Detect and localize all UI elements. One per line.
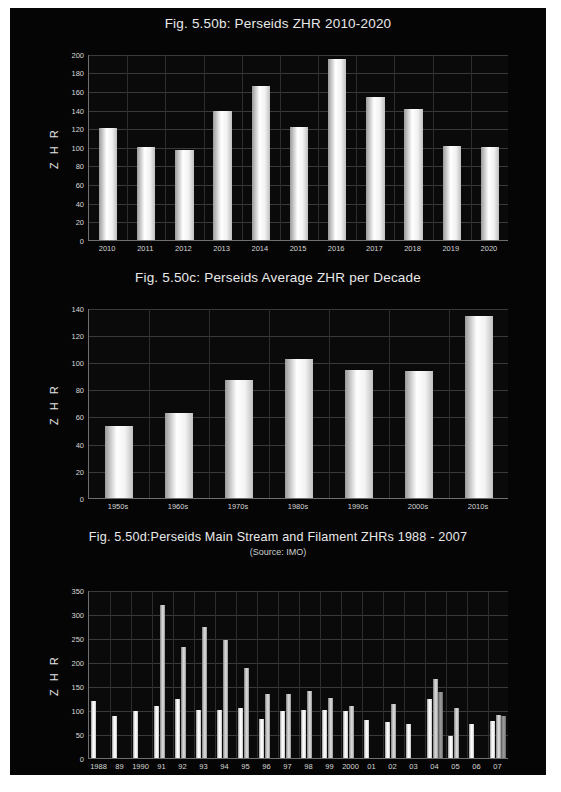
y-axis-tick-label: 50 [60,730,84,739]
vertical-gridline [204,55,205,240]
y-axis-tick-label: 20 [60,218,84,227]
y-axis-tick-label: 40 [60,199,84,208]
y-axis-tick-label: 200 [60,658,84,667]
x-axis-tick-label: 1990s [348,502,368,511]
x-axis-tick-label: 2017 [366,244,383,253]
bar [259,719,264,757]
x-axis-tick-label: 99 [325,762,333,771]
x-axis-tick-label: 96 [262,762,270,771]
gridline [89,309,508,310]
figure-d-plot [88,591,508,759]
x-axis-tick-label: 06 [472,762,480,771]
bar [328,698,333,758]
y-axis-tick-label: 100 [60,359,84,368]
figure-c-plot [88,309,508,499]
bar [345,370,374,498]
x-axis-tick-label: 01 [367,762,375,771]
x-axis-tick-label: 1950s [108,502,128,511]
bar [181,647,186,757]
vertical-gridline [257,591,258,758]
x-axis-tick-label: 97 [283,762,291,771]
bar [328,59,346,240]
x-axis-tick-label: 2010 [99,244,116,253]
vertical-gridline [488,591,489,758]
bar [285,359,314,497]
bar [217,710,222,758]
x-axis-tick-label: 91 [157,762,165,771]
vertical-gridline [320,591,321,758]
bar [137,147,155,240]
bar [343,711,348,758]
y-axis-tick-label: 60 [60,413,84,422]
bar [481,147,499,240]
figure-b-plot [88,55,508,241]
vertical-gridline [471,55,472,240]
vertical-gridline [149,309,150,498]
vertical-gridline [215,591,216,758]
bar [265,694,270,758]
y-axis-tick-label: 0 [60,494,84,503]
y-axis-tick-label: 120 [60,125,84,134]
bar [238,708,243,757]
x-axis-tick-label: 93 [199,762,207,771]
x-axis-tick-label: 2010s [468,502,488,511]
x-axis-tick-label: 94 [220,762,228,771]
y-axis-tick-label: 120 [60,332,84,341]
vertical-gridline [299,591,300,758]
gridline [89,111,508,112]
x-axis-tick-label: 2019 [442,244,459,253]
x-axis-tick-label: 2013 [213,244,230,253]
y-axis-tick-label: 60 [60,181,84,190]
x-axis-tick-label: 2000 [342,762,359,771]
y-axis-tick-label: 180 [60,69,84,78]
figure-b-title: Fig. 5.50b: Perseids ZHR 2010-2020 [10,12,546,33]
vertical-gridline [236,591,237,758]
x-axis-tick-label: 1980s [288,502,308,511]
x-axis-tick-label: 2014 [251,244,268,253]
vertical-gridline [383,591,384,758]
y-axis-tick-label: 140 [60,106,84,115]
vertical-gridline [173,591,174,758]
vertical-gridline [280,55,281,240]
bar [202,627,207,758]
bar [454,708,459,757]
y-axis-tick-label: 80 [60,386,84,395]
y-axis-tick-label: 100 [60,143,84,152]
x-axis-tick-label: 02 [388,762,396,771]
figure-perseids-main-stream-filaments: Fig. 5.50d:Perseids Main Stream and Fila… [10,526,546,775]
bar [112,716,117,758]
x-axis-tick-label: 98 [304,762,312,771]
vertical-gridline [165,55,166,240]
y-axis-tick-label: 160 [60,88,84,97]
bar [160,605,165,758]
vertical-gridline [269,309,270,498]
bar [165,413,194,498]
bar [252,86,270,239]
x-axis-tick-label: 07 [493,762,501,771]
bar [244,668,249,757]
bar [322,710,327,758]
bar [154,706,159,758]
vertical-gridline [394,55,395,240]
bar [385,722,390,758]
bar [307,691,312,758]
bar [490,721,495,757]
vertical-gridline [131,591,132,758]
bar [433,679,438,758]
vertical-gridline [318,55,319,240]
vertical-gridline [152,591,153,758]
x-axis-tick-label: 2011 [137,244,153,253]
bar [496,715,501,758]
bar [469,724,474,758]
bar [501,716,506,758]
figure-perseids-zhr-2010-2020: Fig. 5.50b: Perseids ZHR 2010-2020 Z H R… [10,12,546,262]
figure-d-title: Fig. 5.50d:Perseids Main Stream and Fila… [10,526,546,546]
y-axis-tick-label: 200 [60,50,84,59]
bar [438,692,443,758]
bar [301,710,306,758]
figure-perseids-avg-zhr-per-decade: Fig. 5.50c: Perseids Average ZHR per Dec… [10,266,546,524]
bar [280,711,285,758]
bar [448,736,453,758]
y-axis-tick-label: 300 [60,610,84,619]
vertical-gridline [209,309,210,498]
